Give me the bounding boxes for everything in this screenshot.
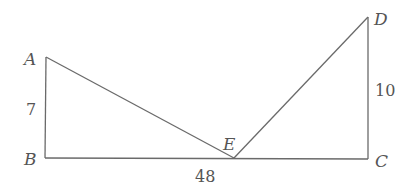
segment-ae xyxy=(46,57,234,158)
measure-ab: 7 xyxy=(26,100,36,119)
point-label-d: D xyxy=(373,9,388,29)
point-label-b: B xyxy=(23,149,37,169)
measure-bc: 48 xyxy=(195,167,215,186)
point-label-e: E xyxy=(222,134,236,154)
measure-dc: 10 xyxy=(375,81,395,100)
segment-ed xyxy=(234,17,368,158)
segment-bc xyxy=(45,158,368,159)
segment-ab xyxy=(45,57,46,158)
point-label-c: C xyxy=(375,151,388,171)
point-label-a: A xyxy=(22,49,36,69)
geometry-diagram: A B E C D 7 48 10 xyxy=(0,0,415,193)
